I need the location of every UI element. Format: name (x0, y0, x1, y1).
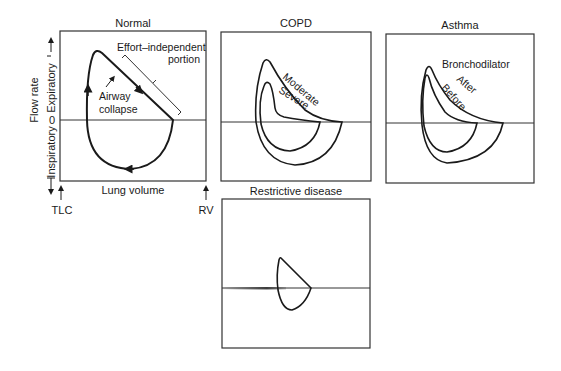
panel-restrictive: Restrictive disease (222, 185, 370, 348)
panel-title-normal: Normal (115, 17, 150, 29)
y-axis-label: Flow rate (28, 77, 40, 122)
panel-normal: Normal 0 Effort–independent portion Airw… (28, 17, 214, 216)
effort-independent-label-line2: portion (168, 53, 200, 65)
panel-title-asthma: Asthma (441, 19, 479, 31)
x-axis-label: Lung volume (102, 184, 165, 196)
airway-collapse-label-line1: Airway (99, 90, 131, 102)
airway-collapse-arrow-icon (106, 78, 113, 87)
tlc-label: TLC (52, 204, 73, 216)
panel-asthma: Asthma Bronchodilator After Before (386, 19, 534, 183)
rv-label: RV (198, 204, 214, 216)
effort-independent-label-line1: Effort–independent (117, 41, 206, 53)
panel-title-copd: COPD (280, 17, 312, 29)
airway-collapse-label-line2: collapse (99, 103, 138, 115)
panel-copd: COPD Moderate Severe (221, 17, 371, 181)
plot-frame-copd (221, 32, 371, 181)
inspiratory-label: Inspiratory (45, 126, 57, 178)
zero-label: 0 (49, 114, 55, 126)
bronchodilator-label: Bronchodilator (442, 58, 510, 70)
expiratory-label: Expiratory (45, 63, 57, 113)
restrictive-loop (277, 258, 311, 310)
panel-title-restrictive: Restrictive disease (250, 185, 342, 197)
flow-volume-loops-diagram: Normal 0 Effort–independent portion Airw… (0, 0, 561, 371)
